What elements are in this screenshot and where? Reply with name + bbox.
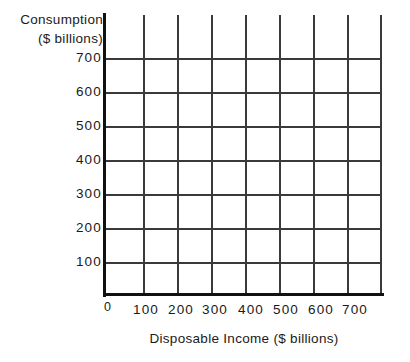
consumption-function-chart: Consumption ($ billions) 700 600 500 400…: [0, 0, 410, 362]
x-axis-title: Disposable Income ($ billions): [106, 331, 382, 347]
x-axis-tick-labels: 0 100 200 300 400 500 600 700: [0, 0, 410, 362]
x-tick-700: 700: [333, 303, 377, 317]
